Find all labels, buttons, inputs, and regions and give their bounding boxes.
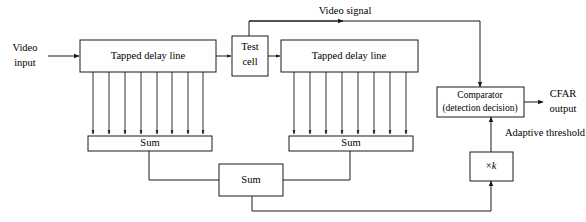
block-label-test-cell-line2: cell — [242, 56, 257, 67]
label-cfar-output-line1: CFAR — [550, 88, 577, 99]
tap-lines-right — [294, 72, 406, 134]
wire-sum-left-to-sum-bottom — [149, 150, 219, 180]
wire-sum-right-to-sum-bottom — [283, 150, 350, 180]
block-label-sum-left: Sum — [140, 137, 159, 148]
label-adaptive-threshold: Adaptive threshold — [505, 127, 586, 138]
block-label-threshold-multiplier: ×k — [486, 160, 497, 171]
block-label-sum-bottom: Sum — [241, 174, 260, 185]
label-video-input-line1: Video — [12, 42, 37, 53]
cfar-block-diagram: Tapped delay line Test cell Tapped delay… — [0, 0, 586, 222]
label-cfar-output-line2: output — [550, 103, 577, 114]
block-label-sum-right: Sum — [341, 137, 360, 148]
multiplier-factor: k — [492, 160, 497, 171]
block-label-comparator-line2: (detection decision) — [442, 103, 517, 114]
block-label-tapped-delay-line-left: Tapped delay line — [111, 50, 186, 61]
block-label-comparator-line1: Comparator — [457, 90, 503, 100]
block-label-tapped-delay-line-right: Tapped delay line — [312, 50, 387, 61]
tap-lines-left — [93, 72, 203, 134]
block-label-test-cell-line1: Test — [241, 41, 258, 52]
wire-sum-bottom-to-multiplier — [252, 181, 491, 211]
label-video-input-line2: input — [14, 57, 36, 68]
diagram-canvas: Tapped delay line Test cell Tapped delay… — [0, 0, 586, 222]
label-video-signal: Video signal — [319, 5, 372, 16]
